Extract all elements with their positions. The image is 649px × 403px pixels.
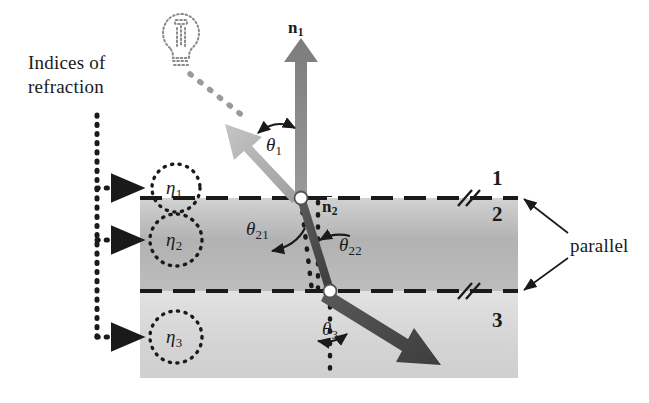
n1-subscript: 1 [298, 26, 304, 39]
angle-label-theta1: θ1 [266, 134, 282, 158]
eta2-subscript: 2 [176, 238, 183, 253]
region-label-1: 1 [492, 167, 503, 191]
eta1-symbol: η [166, 177, 176, 198]
theta3-subscript: 3 [332, 327, 339, 342]
theta22-symbol: θ [339, 234, 349, 255]
surface-normal-arrow [284, 38, 318, 198]
n2-subscript: 2 [332, 205, 338, 218]
theta21-subscript: 21 [256, 227, 269, 242]
parallel-arrow-bottom [524, 258, 568, 290]
eta1-subscript: 1 [176, 186, 183, 201]
indices-leader-lines [97, 115, 143, 337]
indices-title-line2: refraction [28, 76, 104, 97]
eta3-symbol: η [166, 326, 176, 347]
angle-label-theta3: θ3 [322, 318, 338, 342]
parallel-leader-arrows [524, 199, 568, 290]
incident-light-path [190, 74, 243, 116]
node-top-interface [295, 192, 308, 205]
index-label-eta3: η3 [166, 326, 182, 350]
normal-label-n1: n1 [288, 18, 304, 40]
index-label-eta1: η1 [166, 177, 182, 201]
node-bottom-interface [324, 285, 337, 298]
eta2-symbol: η [166, 229, 176, 250]
indices-title-line1: Indices of [28, 52, 105, 73]
region-label-3: 3 [492, 309, 503, 333]
theta21-symbol: θ [246, 218, 256, 239]
arc-theta1 [258, 124, 295, 133]
parallel-arrow-top [524, 199, 568, 233]
light-bulb-icon [163, 14, 199, 65]
theta1-symbol: θ [266, 134, 276, 155]
parallel-label: parallel [570, 235, 629, 256]
refraction-diagram: Indices of refraction parallel η1 η2 η3 … [0, 0, 649, 403]
reflected-ray-arrow [225, 124, 300, 203]
theta22-subscript: 22 [349, 243, 362, 258]
index-label-eta2: η2 [166, 229, 182, 253]
angle-label-theta21: θ21 [246, 218, 269, 242]
region-label-2: 2 [492, 203, 503, 227]
eta3-subscript: 3 [176, 335, 183, 350]
n1-symbol: n [288, 18, 298, 37]
normal-label-n2: n2 [322, 196, 338, 219]
angle-label-theta22: θ22 [339, 234, 362, 258]
theta3-symbol: θ [322, 318, 332, 339]
theta1-subscript: 1 [276, 143, 283, 158]
n2-symbol: n [322, 196, 332, 216]
